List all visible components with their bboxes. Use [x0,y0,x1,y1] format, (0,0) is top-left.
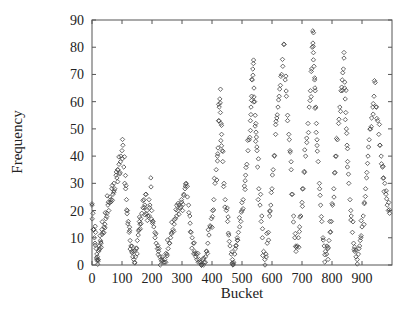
data-point-diamond [249,105,253,109]
data-point-diamond [317,181,321,185]
data-point-diamond [257,187,261,191]
data-point-diamond [227,239,231,243]
data-point-diamond [273,132,277,136]
data-point-diamond [332,187,336,191]
data-point-diamond [128,238,132,242]
data-point-diamond [329,219,333,223]
data-point-diamond [300,200,304,204]
data-point-diamond [258,203,262,207]
data-point-diamond [332,195,336,199]
data-point-diamond [218,110,222,114]
data-point-diamond [303,148,307,152]
data-point-diamond [375,116,379,120]
x-tick-label: 600 [262,271,283,286]
data-point-diamond [107,208,111,212]
data-point-diamond [254,135,258,139]
y-axis-label: Frequency [9,110,25,174]
data-point-diamond [270,187,274,191]
data-point-diamond [91,211,95,215]
data-point-diamond [260,236,264,240]
data-point-diamond [377,132,381,136]
data-point-diamond [346,172,350,176]
data-point-diamond [287,137,291,141]
data-point-diamond [254,130,258,134]
data-point-diamond [343,117,347,121]
data-point-diamond [318,203,322,207]
data-point-diamond [363,187,367,191]
data-point-diamond [276,98,280,102]
x-axis-label: Bucket [221,285,264,301]
data-point-diamond [342,50,346,54]
data-point-diamond [252,86,256,90]
data-point-diamond [256,157,260,161]
data-point-diamond [260,227,264,231]
data-point-diamond [218,87,222,91]
data-point-diamond [249,112,253,116]
data-point-diamond [147,197,151,201]
data-point-diamond [190,236,194,240]
data-point-diamond [341,67,345,71]
data-point-diamond [190,246,194,250]
data-point-diamond [280,57,284,61]
data-point-diamond [135,238,139,242]
data-point-diamond [149,185,153,189]
y-tick-label: 50 [70,122,84,137]
data-point-diamond [326,257,330,261]
data-point-diamond [317,187,321,191]
data-point-diamond [248,119,252,123]
x-tick-label: 100 [112,271,133,286]
data-point-diamond [308,98,312,102]
data-point-diamond [315,138,319,142]
data-point-diamond [278,87,282,91]
data-point-diamond [206,241,210,245]
data-point-diamond [207,233,211,237]
data-point-diamond [372,94,376,98]
data-point-diamond [291,214,295,218]
data-point-diamond [359,218,363,222]
data-point-diamond [344,127,348,131]
data-point-diamond [305,140,309,144]
data-point-diamond [297,229,301,233]
data-point-diamond [345,165,349,169]
data-point-diamond [228,244,232,248]
data-point-diamond [186,203,190,207]
data-point-diamond [347,181,351,185]
x-tick-label: 700 [292,271,313,286]
data-point-diamond [220,148,224,152]
x-axis: 0100200300400500600700800900 [89,20,373,286]
y-tick-label: 30 [70,176,84,191]
data-point-diamond [285,118,289,122]
data-point-diamond [243,173,247,177]
data-point-diamond [120,137,124,141]
data-point-diamond [316,159,320,163]
x-tick-label: 300 [172,271,193,286]
data-point-diamond [327,238,331,242]
data-point-diamond [212,197,216,201]
data-point-diamond [276,105,280,109]
data-point-diamond [349,214,353,218]
data-point-diamond [221,159,225,163]
data-point-diamond [306,121,310,125]
data-point-diamond [311,58,315,62]
data-point-diamond [363,194,367,198]
y-tick-label: 80 [70,40,84,55]
data-point-diamond [367,138,371,142]
data-point-diamond [253,113,257,117]
data-point-diamond [366,154,370,158]
data-point-diamond [291,220,295,224]
data-point-diamond [289,160,293,164]
data-point-diamond [338,109,342,113]
data-point-diamond [365,170,369,174]
data-point-diamond [123,173,127,177]
data-point-diamond [294,249,298,253]
data-point-diamond [172,222,176,226]
data-point-diamond [270,173,274,177]
data-point-diamond [360,225,364,229]
data-point-diamond [351,241,355,245]
data-point-diamond [255,165,259,169]
y-tick-label: 10 [70,231,84,246]
data-point-diamond [383,181,387,185]
data-point-diamond [269,203,273,207]
data-point-diamond [285,113,289,117]
x-tick-label: 800 [322,271,343,286]
